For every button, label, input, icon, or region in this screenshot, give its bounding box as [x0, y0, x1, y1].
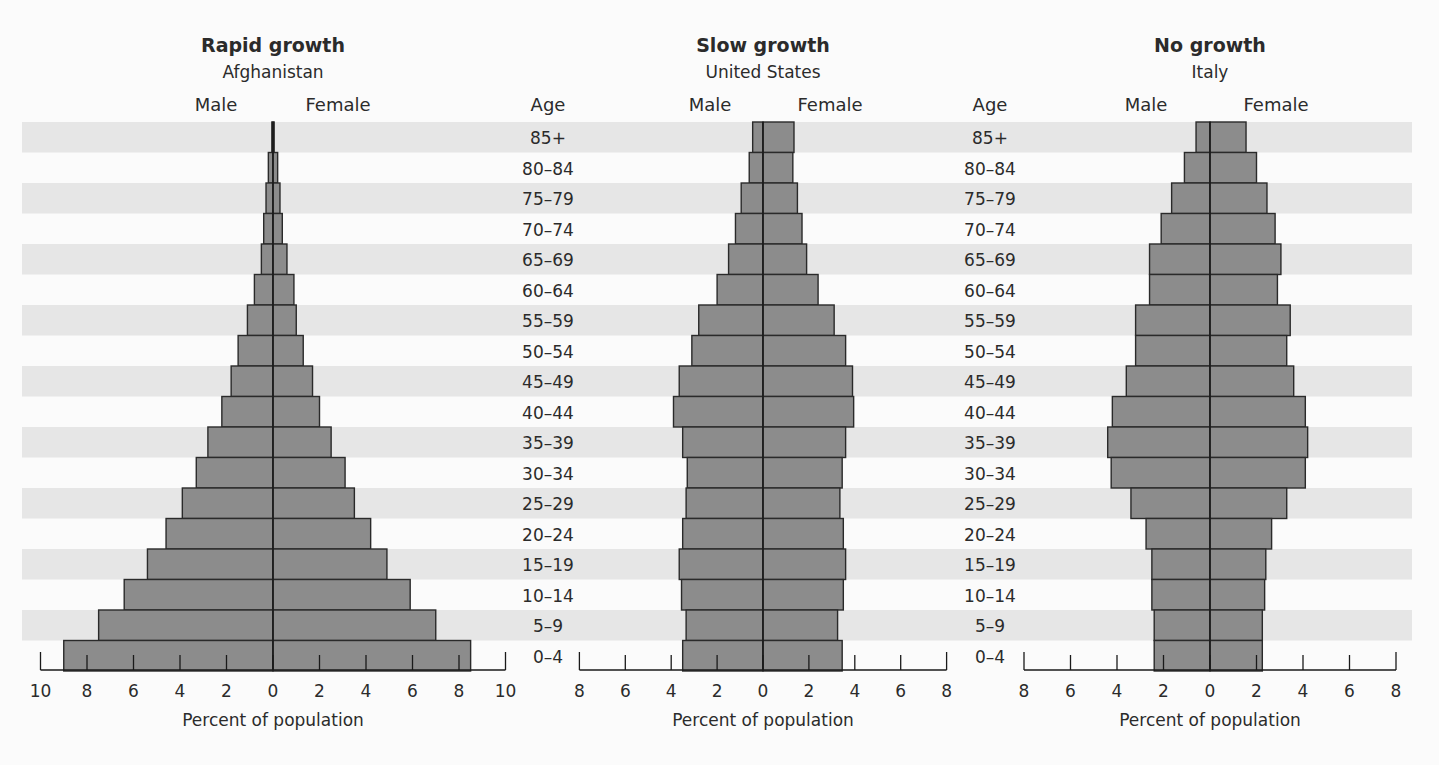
male-bar — [1154, 610, 1210, 641]
age-group-label: 60–64 — [964, 281, 1016, 301]
age-group-label: 75–79 — [522, 189, 574, 209]
age-group-label: 0–4 — [975, 647, 1005, 667]
age-group-label: 30–34 — [522, 464, 574, 484]
female-bar — [1210, 610, 1262, 641]
x-tick-label: 2 — [221, 681, 232, 701]
chart-title: Rapid growth — [201, 34, 345, 56]
female-bar — [273, 580, 410, 611]
female-bar — [1210, 122, 1246, 153]
age-group-label: 55–59 — [964, 311, 1016, 331]
female-bar — [273, 397, 320, 428]
x-tick-label: 8 — [82, 681, 93, 701]
x-tick-label: 2 — [1158, 681, 1169, 701]
x-axis-label: Percent of population — [1119, 710, 1301, 730]
male-bar — [147, 549, 273, 580]
male-bar — [1150, 275, 1210, 306]
male-bar — [261, 244, 273, 275]
age-group-label: 5–9 — [533, 616, 563, 636]
male-bar — [124, 580, 273, 611]
female-bar — [1210, 458, 1305, 489]
male-bar — [231, 366, 273, 397]
female-bar — [1210, 244, 1281, 275]
female-bar — [763, 488, 840, 519]
female-bar — [763, 397, 854, 428]
age-group-label: 30–34 — [964, 464, 1016, 484]
male-bar — [1111, 458, 1210, 489]
female-bar — [763, 458, 842, 489]
x-tick-label: 4 — [1298, 681, 1309, 701]
x-tick-label: 6 — [895, 681, 906, 701]
female-bar — [763, 519, 843, 550]
age-group-label: 0–4 — [533, 647, 563, 667]
age-group-label: 70–74 — [522, 220, 574, 240]
female-bar — [273, 183, 280, 214]
male-bar — [686, 610, 763, 641]
male-bar — [1131, 488, 1210, 519]
x-axis-label: Percent of population — [672, 710, 854, 730]
male-bar — [166, 519, 273, 550]
x-tick-label: 4 — [175, 681, 186, 701]
male-bar — [266, 183, 273, 214]
female-bar — [763, 427, 846, 458]
male-bar — [1108, 427, 1210, 458]
x-tick-label: 10 — [30, 681, 52, 701]
female-bar — [1210, 366, 1294, 397]
male-bar — [749, 153, 763, 184]
age-axis-header: Age — [973, 94, 1008, 115]
female-bar — [1210, 183, 1267, 214]
female-bar — [273, 275, 294, 306]
age-group-label: 20–24 — [522, 525, 574, 545]
male-bar — [1184, 153, 1210, 184]
male-label: Male — [1125, 94, 1168, 115]
x-tick-label: 2 — [1251, 681, 1262, 701]
female-bar — [763, 122, 794, 153]
country-subtitle: Italy — [1192, 62, 1229, 82]
male-bar — [1150, 244, 1210, 275]
x-tick-label: 4 — [666, 681, 677, 701]
age-group-label: 70–74 — [964, 220, 1016, 240]
female-bar — [1210, 641, 1262, 672]
x-tick-label: 4 — [1112, 681, 1123, 701]
male-bar — [1146, 519, 1210, 550]
female-bar — [763, 549, 846, 580]
female-bar — [763, 153, 793, 184]
female-bar — [1210, 153, 1257, 184]
x-tick-label: 0 — [1205, 681, 1216, 701]
male-bar — [687, 458, 763, 489]
male-bar — [238, 336, 273, 367]
male-bar — [1152, 580, 1210, 611]
female-bar — [763, 336, 846, 367]
female-bar — [763, 183, 797, 214]
age-group-label: 75–79 — [964, 189, 1016, 209]
male-bar — [1196, 122, 1210, 153]
female-bar — [273, 488, 354, 519]
female-bar — [763, 275, 818, 306]
age-group-label: 65–69 — [964, 250, 1016, 270]
age-group-label: 50–54 — [522, 342, 574, 362]
female-bar — [1210, 549, 1266, 580]
female-label: Female — [305, 94, 370, 115]
x-tick-label: 2 — [314, 681, 325, 701]
male-bar — [679, 366, 763, 397]
male-bar — [735, 214, 763, 245]
male-bar — [182, 488, 273, 519]
female-bar — [273, 305, 296, 336]
chart-title: Slow growth — [696, 34, 830, 56]
x-tick-label: 6 — [1065, 681, 1076, 701]
x-tick-label: 8 — [1391, 681, 1402, 701]
x-tick-label: 2 — [803, 681, 814, 701]
country-subtitle: Afghanistan — [222, 62, 323, 82]
male-bar — [1126, 366, 1210, 397]
male-bar — [741, 183, 763, 214]
x-tick-label: 4 — [361, 681, 372, 701]
female-bar — [273, 458, 345, 489]
female-bar — [1210, 275, 1277, 306]
male-bar — [247, 305, 273, 336]
male-bar — [692, 336, 763, 367]
female-bar — [763, 214, 802, 245]
age-group-label: 10–14 — [522, 586, 574, 606]
female-label: Female — [797, 94, 862, 115]
male-bar — [729, 244, 763, 275]
female-bar — [273, 610, 436, 641]
female-bar — [1210, 336, 1287, 367]
